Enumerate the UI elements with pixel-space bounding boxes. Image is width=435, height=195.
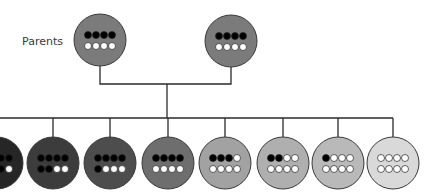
light-allele-dot (331, 166, 338, 173)
light-allele-dot (119, 166, 126, 173)
light-allele-dot (226, 166, 233, 173)
dark-allele-dot (240, 33, 247, 40)
dark-allele-dot (46, 155, 53, 162)
dark-allele-dot (38, 155, 45, 162)
light-allele-dot (402, 166, 409, 173)
dark-allele-dot (62, 155, 69, 162)
offspring-circle (84, 137, 136, 189)
offspring-circle (0, 137, 23, 189)
offspring-circle (257, 137, 309, 189)
diagram-canvas (0, 0, 435, 195)
light-allele-dot (218, 166, 225, 173)
offspring-circle (312, 137, 364, 189)
parent-circle (74, 14, 126, 66)
light-allele-dot (161, 166, 168, 173)
polygenic-inheritance-diagram: Parents (0, 0, 435, 195)
dark-allele-dot (85, 32, 92, 39)
light-allele-dot (292, 166, 299, 173)
dark-allele-dot (93, 32, 100, 39)
dark-allele-dot (218, 155, 225, 162)
dark-allele-dot (232, 33, 239, 40)
light-allele-dot (378, 166, 385, 173)
dark-allele-dot (103, 155, 110, 162)
dark-allele-dot (276, 155, 283, 162)
light-allele-dot (109, 43, 116, 50)
light-allele-dot (386, 166, 393, 173)
light-allele-dot (103, 166, 110, 173)
light-allele-dot (339, 155, 346, 162)
light-allele-dot (240, 44, 247, 51)
light-allele-dot (234, 166, 241, 173)
light-allele-dot (292, 155, 299, 162)
light-allele-dot (234, 155, 241, 162)
dark-allele-dot (323, 155, 330, 162)
dark-allele-dot (109, 32, 116, 39)
offspring-circle (199, 137, 251, 189)
dark-allele-dot (177, 155, 184, 162)
light-allele-dot (177, 166, 184, 173)
dark-allele-dot (0, 155, 5, 162)
light-allele-dot (402, 155, 409, 162)
light-allele-dot (85, 43, 92, 50)
dark-allele-dot (216, 33, 223, 40)
dark-allele-dot (153, 155, 160, 162)
light-allele-dot (54, 166, 61, 173)
light-allele-dot (224, 44, 231, 51)
light-allele-dot (232, 44, 239, 51)
light-allele-dot (210, 166, 217, 173)
dark-allele-dot (226, 155, 233, 162)
dark-allele-dot (95, 155, 102, 162)
light-allele-dot (284, 155, 291, 162)
dark-allele-dot (111, 155, 118, 162)
parents-connector-line (100, 66, 231, 84)
dark-allele-dot (46, 166, 53, 173)
light-allele-dot (93, 43, 100, 50)
light-allele-dot (331, 155, 338, 162)
dark-allele-dot (6, 155, 13, 162)
light-allele-dot (62, 166, 69, 173)
light-allele-dot (111, 166, 118, 173)
light-allele-dot (323, 166, 330, 173)
offspring-circle (142, 137, 194, 189)
light-allele-dot (153, 166, 160, 173)
light-allele-dot (394, 166, 401, 173)
dark-allele-dot (224, 33, 231, 40)
light-allele-dot (268, 166, 275, 173)
dark-allele-dot (38, 166, 45, 173)
dark-allele-dot (161, 155, 168, 162)
light-allele-dot (284, 166, 291, 173)
light-allele-dot (6, 166, 13, 173)
dark-allele-dot (119, 155, 126, 162)
light-allele-dot (394, 155, 401, 162)
dark-allele-dot (210, 155, 217, 162)
light-allele-dot (386, 155, 393, 162)
dark-allele-dot (268, 155, 275, 162)
offspring-circle (27, 137, 79, 189)
light-allele-dot (347, 155, 354, 162)
dark-allele-dot (0, 166, 5, 173)
light-allele-dot (347, 166, 354, 173)
offspring-circle (367, 137, 419, 189)
light-allele-dot (216, 44, 223, 51)
parent-circle (205, 15, 257, 67)
light-allele-dot (101, 43, 108, 50)
light-allele-dot (169, 166, 176, 173)
light-allele-dot (339, 166, 346, 173)
dark-allele-dot (169, 155, 176, 162)
dark-allele-dot (95, 166, 102, 173)
dark-allele-dot (54, 155, 61, 162)
dark-allele-dot (101, 32, 108, 39)
light-allele-dot (378, 155, 385, 162)
light-allele-dot (276, 166, 283, 173)
